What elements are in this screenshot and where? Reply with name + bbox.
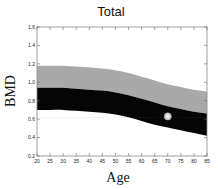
x-tick-label: 35 [73, 158, 79, 164]
x-tick-label: 20 [34, 158, 40, 164]
y-tick-label: 0.4 [28, 134, 35, 140]
y-tick-label: 0.6 [28, 116, 35, 122]
x-tick-label: 50 [113, 158, 119, 164]
y-tick-label: 1.2 [28, 61, 35, 67]
x-tick-label: 40 [87, 158, 93, 164]
y-tick-label: 0.8 [28, 98, 35, 104]
y-axis-label: BMD [3, 75, 18, 107]
x-tick-label: 80 [191, 158, 197, 164]
bmd-chart: Total 2025303540455055606570758085 0.20.… [0, 0, 218, 189]
x-tick-label: 70 [165, 158, 171, 164]
x-tick-label: 85 [204, 158, 210, 164]
data-point-center [166, 115, 170, 119]
x-tick-label: 55 [126, 158, 132, 164]
y-tick-label: 0.2 [28, 153, 35, 159]
y-tick-label: 1.4 [28, 42, 35, 48]
x-tick-label: 45 [100, 158, 106, 164]
y-tick-label: 1.0 [28, 79, 35, 85]
x-tick-label: 75 [178, 158, 184, 164]
points-layer [164, 113, 171, 120]
x-tick-label: 60 [139, 158, 145, 164]
x-tick-label: 25 [47, 158, 53, 164]
y-tick-label: 1.6 [28, 24, 35, 30]
x-axis-label: Age [106, 170, 129, 185]
x-tick-label: 30 [60, 158, 66, 164]
x-tick-label: 65 [152, 158, 158, 164]
plot-area [37, 27, 207, 156]
chart-title: Total [97, 4, 125, 19]
